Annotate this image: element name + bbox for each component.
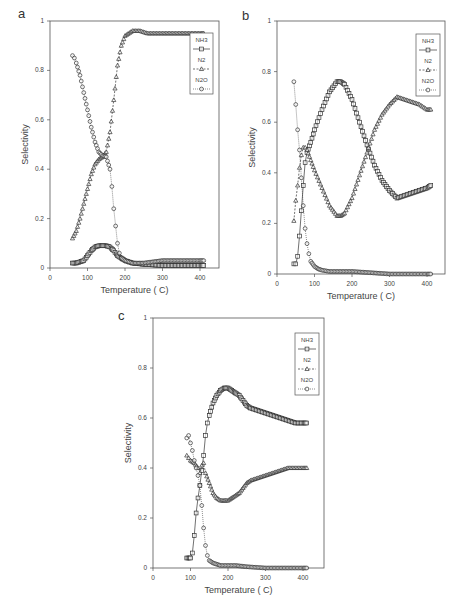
- y-tick-label: 0.6: [138, 414, 147, 421]
- chart-b: 00.20.40.60.810100200300400Temperature (…: [247, 17, 445, 301]
- x-tick-label: 100: [82, 274, 93, 281]
- square-marker-icon: [200, 47, 204, 51]
- x-axis-label: Temperature ( C): [100, 285, 168, 295]
- y-tick-label: 0: [267, 270, 271, 277]
- x-axis-label: Temperature ( C): [327, 291, 395, 301]
- legend-label: NH3: [301, 337, 314, 343]
- x-tick-label: 100: [309, 280, 320, 287]
- circle-marker-icon: [200, 87, 204, 91]
- chart-c: 00.20.40.60.810100200300400Temperature (…: [123, 314, 324, 595]
- x-tick-label: 200: [120, 274, 131, 281]
- x-tick-label: 400: [298, 574, 309, 581]
- x-tick-label: 400: [195, 274, 206, 281]
- y-tick-label: 0.4: [262, 169, 271, 176]
- series-nh3: [185, 386, 309, 560]
- y-tick-label: 0.4: [138, 464, 147, 471]
- y-tick-label: 1: [267, 17, 271, 24]
- legend: NH3N2N2O: [416, 34, 440, 96]
- y-axis-label: Selectivity: [20, 124, 30, 165]
- x-axis-label: Temperature ( C): [204, 585, 272, 595]
- x-tick-label: 300: [384, 280, 395, 287]
- y-tick-label: 0: [143, 564, 147, 571]
- series-n2o: [71, 54, 206, 265]
- y-tick-label: 1: [40, 17, 44, 24]
- legend-label: N2: [303, 357, 311, 363]
- legend-label: N2: [198, 57, 206, 63]
- y-tick-label: 0.6: [262, 118, 271, 125]
- y-tick-label: 1: [143, 314, 147, 321]
- legend-label: N2O: [195, 77, 208, 83]
- x-tick-label: 200: [223, 574, 234, 581]
- circle-marker-icon: [305, 387, 309, 391]
- square-marker-icon: [426, 48, 430, 52]
- square-marker-icon: [305, 347, 309, 351]
- series-n2o: [292, 80, 433, 276]
- series-n2: [292, 95, 433, 223]
- series-nh3: [292, 80, 433, 266]
- legend: NH3N2N2O: [190, 33, 213, 94]
- y-tick-label: 0.4: [35, 165, 44, 172]
- circle-marker-icon: [426, 88, 430, 92]
- legend-label: N2O: [301, 377, 314, 383]
- legend-label: N2O: [422, 78, 435, 84]
- y-tick-label: 0.8: [35, 66, 44, 73]
- x-tick-label: 300: [260, 574, 271, 581]
- legend-label: NH3: [195, 37, 208, 43]
- legend-label: NH3: [422, 38, 435, 44]
- series-n2: [70, 29, 205, 240]
- y-tick-label: 0.6: [35, 116, 44, 123]
- selectivity-charts: 00.20.40.60.810100200300400Temperature (…: [0, 0, 460, 608]
- x-tick-label: 400: [422, 280, 433, 287]
- x-tick-label: 0: [48, 274, 52, 281]
- x-tick-label: 200: [347, 280, 358, 287]
- y-tick-label: 0: [40, 264, 44, 271]
- y-tick-label: 0.2: [262, 219, 271, 226]
- legend-label: N2: [424, 58, 432, 64]
- y-axis-label: Selectivity: [123, 422, 133, 463]
- y-tick-label: 0.2: [138, 514, 147, 521]
- y-tick-label: 0.8: [262, 68, 271, 75]
- y-axis-label: Selectivity: [247, 127, 257, 168]
- x-tick-label: 0: [275, 280, 279, 287]
- y-tick-label: 0.2: [35, 215, 44, 222]
- y-tick-label: 0.8: [138, 364, 147, 371]
- x-tick-label: 300: [157, 274, 168, 281]
- chart-a: 00.20.40.60.810100200300400Temperature (…: [20, 17, 219, 295]
- legend: NH3N2N2O: [295, 333, 319, 395]
- x-tick-label: 0: [151, 574, 155, 581]
- x-tick-label: 100: [185, 574, 196, 581]
